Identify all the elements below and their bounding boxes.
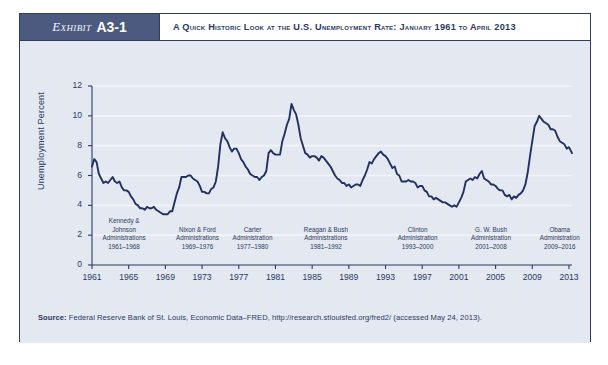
annotation-line: Administrations bbox=[281, 234, 371, 242]
y-axis-tick-8: 8 bbox=[62, 140, 82, 150]
annotation-line: Obama bbox=[515, 226, 605, 234]
x-axis-tick-2009: 2009 bbox=[512, 272, 552, 282]
x-axis-tick-1977: 1977 bbox=[219, 272, 259, 282]
y-axis-tick-6: 6 bbox=[62, 170, 82, 180]
chart-body: Unemployment Percent 0246810121961196519… bbox=[20, 41, 590, 343]
y-axis-tick-4: 4 bbox=[62, 199, 82, 209]
x-axis-tick-1973: 1973 bbox=[182, 272, 222, 282]
annotation-line: Kennedy & bbox=[79, 217, 169, 225]
annotation-line: Administration bbox=[515, 234, 605, 242]
x-axis-tick-1989: 1989 bbox=[329, 272, 369, 282]
administration-annotation-3: Reagan & BushAdministrations1981–1992 bbox=[281, 226, 371, 251]
source-label: Source: bbox=[38, 313, 67, 322]
administration-annotation-6: ObamaAdministration2009–2016 bbox=[515, 226, 605, 251]
x-axis-tick-1985: 1985 bbox=[292, 272, 332, 282]
x-axis-tick-1993: 1993 bbox=[366, 272, 406, 282]
source-note: Source: Federal Reserve Bank of St. Loui… bbox=[38, 313, 578, 322]
exhibit-figure: Exhibit A3-1 A Quick Historic Look at th… bbox=[19, 13, 591, 342]
x-axis-tick-1965: 1965 bbox=[109, 272, 149, 282]
x-axis-tick-1969: 1969 bbox=[145, 272, 185, 282]
unemployment-line-chart bbox=[20, 41, 592, 301]
annotation-line: 1981–1992 bbox=[281, 243, 371, 251]
x-axis-tick-1997: 1997 bbox=[402, 272, 442, 282]
y-axis-label: Unemployment Percent bbox=[36, 71, 46, 211]
page-title: A Quick Historic Look at the U.S. Unempl… bbox=[173, 22, 516, 32]
exhibit-label-box: Exhibit A3-1 bbox=[20, 14, 160, 40]
exhibit-number: A3-1 bbox=[96, 19, 126, 35]
x-axis-tick-2013: 2013 bbox=[549, 272, 589, 282]
source-text: Federal Reserve Bank of St. Louis, Econo… bbox=[67, 313, 482, 322]
x-axis-tick-2001: 2001 bbox=[439, 272, 479, 282]
y-axis-tick-10: 10 bbox=[62, 110, 82, 120]
x-axis-tick-1981: 1981 bbox=[255, 272, 295, 282]
exhibit-title-box: A Quick Historic Look at the U.S. Unempl… bbox=[160, 14, 590, 40]
x-axis-tick-1961: 1961 bbox=[72, 272, 112, 282]
y-axis-tick-12: 12 bbox=[62, 80, 82, 90]
annotation-line: 2009–2016 bbox=[515, 243, 605, 251]
exhibit-word: Exhibit bbox=[52, 19, 91, 35]
x-axis-tick-2005: 2005 bbox=[476, 272, 516, 282]
chart-plot-area: Unemployment Percent 0246810121961196519… bbox=[20, 41, 592, 301]
exhibit-header: Exhibit A3-1 A Quick Historic Look at th… bbox=[20, 14, 590, 41]
annotation-line: Reagan & Bush bbox=[281, 226, 371, 234]
y-axis-tick-0: 0 bbox=[62, 259, 82, 269]
